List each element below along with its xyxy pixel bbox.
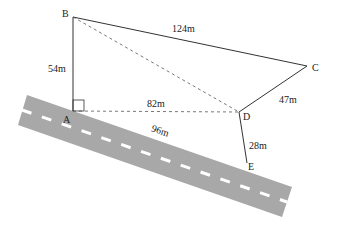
segment-cd [239,66,307,112]
point-label-d: D [243,111,250,122]
right-angle-marker [73,100,84,111]
point-label-e: E [248,161,254,172]
label-ab-length: 54m [48,63,66,74]
label-bc-length: 124m [172,23,195,34]
geometry-diagram: B A C D E 54m 124m 47m 28m 82m 96m [0,0,339,231]
segment-ad [73,111,239,112]
label-road-length: 96m [150,122,171,138]
label-ad-length: 82m [147,98,165,109]
point-label-b: B [62,8,69,19]
point-label-c: C [312,62,319,73]
label-de-length: 28m [249,140,267,151]
road-surface [18,95,292,217]
point-label-a: A [63,114,71,125]
road [18,95,292,217]
label-cd-length: 47m [279,94,297,105]
